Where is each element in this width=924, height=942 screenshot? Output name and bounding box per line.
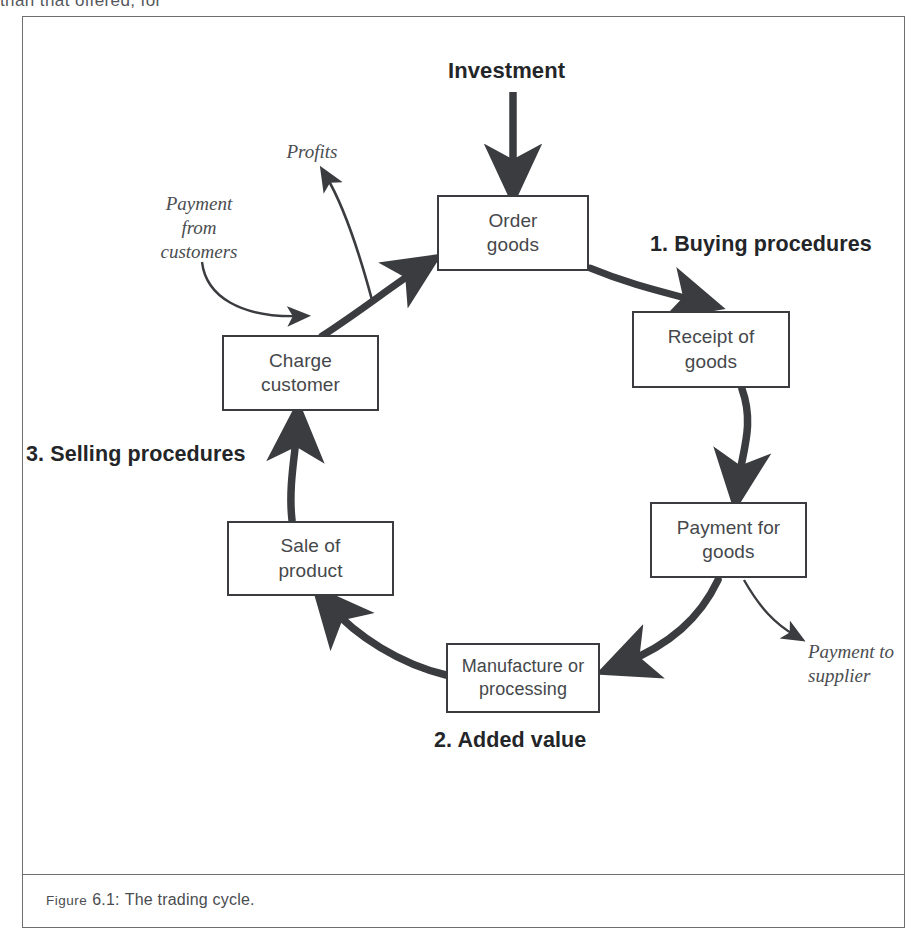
node-charge-customer-label: Charge customer bbox=[261, 349, 340, 398]
edge-charge-to-order bbox=[322, 268, 420, 336]
edge-order-to-receipt bbox=[590, 268, 700, 302]
node-order-goods[interactable]: Order goods bbox=[437, 195, 589, 271]
stage-label-selling-procedures: 3. Selling procedures bbox=[26, 442, 246, 467]
flow-label-payment-from-customers: Payment from customers bbox=[139, 192, 259, 263]
edge-receipt-to-payment bbox=[738, 389, 748, 484]
edge-payment-to-manu bbox=[622, 580, 718, 664]
node-manufacture-or-processing-label: Manufacture or processing bbox=[462, 655, 584, 701]
stage-label-buying-procedures: 1. Buying procedures bbox=[650, 232, 872, 257]
node-payment-for-goods[interactable]: Payment for goods bbox=[650, 502, 807, 578]
flow-label-investment: Investment bbox=[448, 58, 565, 84]
node-charge-customer[interactable]: Charge customer bbox=[222, 335, 379, 411]
edge-payment-to-supplier bbox=[744, 580, 796, 636]
cycle-diagram-canvas bbox=[0, 0, 924, 942]
flow-label-profits: Profits bbox=[262, 140, 362, 164]
node-receipt-of-goods-label: Receipt of goods bbox=[668, 325, 755, 374]
node-manufacture-or-processing[interactable]: Manufacture or processing bbox=[446, 643, 600, 713]
node-receipt-of-goods[interactable]: Receipt of goods bbox=[632, 311, 790, 388]
node-order-goods-label: Order goods bbox=[487, 209, 539, 258]
edge-order-to-profits bbox=[326, 176, 372, 300]
node-payment-for-goods-label: Payment for goods bbox=[677, 516, 781, 565]
edge-manu-to-sale bbox=[330, 606, 446, 675]
stage-label-added-value: 2. Added value bbox=[434, 728, 586, 753]
node-sale-of-product[interactable]: Sale of product bbox=[227, 521, 394, 596]
edge-custpayment-to-order bbox=[202, 262, 300, 316]
flow-label-payment-to-supplier: Payment to supplier bbox=[808, 640, 924, 688]
node-sale-of-product-label: Sale of product bbox=[278, 534, 342, 583]
edge-sale-to-charge bbox=[291, 428, 297, 520]
